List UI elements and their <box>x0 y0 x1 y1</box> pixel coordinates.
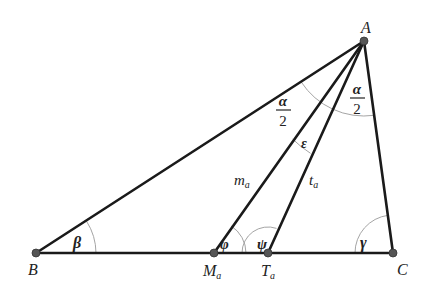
angle-alpha-half-left: α 2 <box>276 93 291 129</box>
alpha-right-den: 2 <box>353 101 361 117</box>
median-ma <box>214 41 364 253</box>
label-ma: Ma <box>202 262 221 281</box>
arc-beta <box>87 221 96 253</box>
angle-epsilon: ε <box>301 136 307 151</box>
label-median-main: m <box>234 172 245 188</box>
label-median: ma <box>234 172 250 190</box>
label-median-sub: a <box>245 179 250 190</box>
label-bisector-sub: a <box>313 179 318 190</box>
label-c: C <box>397 261 408 278</box>
segments <box>36 41 393 253</box>
angle-phi: φ <box>220 236 229 252</box>
label-b: B <box>28 261 38 278</box>
label-ta-sub: a <box>270 270 275 281</box>
side-ac <box>364 41 393 253</box>
alpha-right-num: α <box>353 81 362 97</box>
arc-phi <box>231 226 246 253</box>
point-ma <box>210 249 218 257</box>
label-a: A <box>360 19 371 36</box>
alpha-left-num: α <box>279 93 288 109</box>
label-ta: Ta <box>261 262 275 281</box>
point-c <box>389 249 397 257</box>
label-bisector: ta <box>309 172 318 190</box>
label-ma-sub: a <box>216 270 221 281</box>
angle-alpha-half-right: α 2 <box>350 81 365 117</box>
point-b <box>32 249 40 257</box>
point-a <box>360 37 368 45</box>
angle-arcs <box>87 82 389 253</box>
angle-beta: β <box>72 234 82 252</box>
triangle-diagram: A B C Ma Ta ma ta β γ φ ψ ε α 2 α 2 <box>0 0 429 294</box>
angle-gamma: γ <box>360 234 367 252</box>
alpha-left-den: 2 <box>279 113 287 129</box>
angle-psi: ψ <box>257 236 268 252</box>
